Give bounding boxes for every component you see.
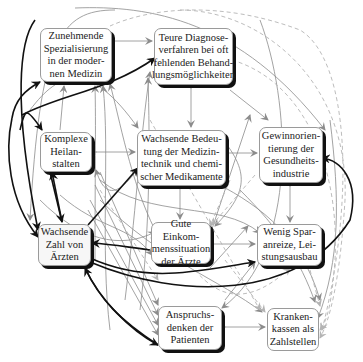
edge [125,72,150,300]
node-label-line: stalten [44,158,88,171]
edge [21,20,38,230]
node-label-line: Wachsende [41,226,89,239]
edge [195,268,290,294]
node-label-line: technik und chemi- [140,158,223,171]
node-label-line: Wenig Spar- [262,226,318,239]
node-label-line: stungsausbau [262,251,318,264]
node-label-line: anreize, Lei- [262,239,318,252]
edge [210,180,230,226]
node-label-line: Teure Diagnose- [152,32,235,45]
edge [210,226,248,268]
node-gewinnorientierung: Gewinnorien- tierung der Gesundheits- in… [259,127,323,183]
node-label-line: industrie [262,168,320,181]
node-label-line: Spezialisierung [44,43,109,56]
node-gute-einkommenssituation: Gute Einkom- menssituation der Ärzte [151,222,211,264]
node-label-line: Gesundheits- [262,155,320,168]
node-label-line: Anspruchs- [166,309,214,322]
node-label-line: Ärzten [41,251,89,264]
edge [92,243,150,250]
node-label-line: der Ärzte [152,256,210,269]
node-anspruchsdenken-patienten: Anspruchs- denken der Patienten [158,306,222,350]
node-label-line: tung der Medizin- [140,146,223,159]
edge [100,172,158,305]
edge [52,172,62,222]
node-label-line: scher Medikamente [140,171,223,184]
edge [30,78,138,128]
node-zunehmende-spezialisierung: Zunehmende Spezialisierung in der moder-… [40,28,112,82]
node-label-line: Wachsende Bedeu- [140,133,223,146]
node-label-line: kassen als [270,323,317,336]
node-label-line: Kranken- [270,311,317,324]
node-label-line: Gute Einkom- [152,218,210,243]
node-wachsende-bedeutung-medizintechnik: Wachsende Bedeu- tung der Medizin- techn… [137,130,226,186]
node-komplexe-heilanstalten: Komplexe Heilan- stalten [40,132,92,172]
node-label-line: lungsmöglichkeiten [152,69,235,82]
node-label-line: denken der [166,322,214,335]
node-wachsende-zahl-aerzte: Wachsende Zahl von Ärzten [38,224,91,266]
node-wenig-sparanreize: Wenig Spar- anreize, Lei- stungsausbau [257,224,322,266]
node-label-line: in der moder- [44,55,109,68]
node-label-line: Zahlstellen [270,336,317,349]
node-label-line: Zahl von [41,239,89,252]
node-label-line: verfahren bei oft [152,44,235,57]
node-label-line: Komplexe [44,133,88,146]
node-label-line: tierung der [262,143,320,156]
edge [60,86,64,130]
node-label-line: Patienten [166,334,214,347]
node-label-line: Heilan- [44,146,88,159]
node-teure-diagnoseverfahren: Teure Diagnose- verfahren bei oft fehlen… [154,28,233,85]
node-label-line: Zunehmende [44,30,109,43]
node-label-line: menssituation [152,243,210,256]
node-krankenkassen-zahlstellen: Kranken- kassen als Zahlstellen [267,308,319,351]
edge [230,90,268,120]
node-label-line: Gewinnorien- [262,130,320,143]
node-label-line: fehlenden Behand- [152,57,235,70]
node-label-line: nen Medizin [44,68,109,81]
